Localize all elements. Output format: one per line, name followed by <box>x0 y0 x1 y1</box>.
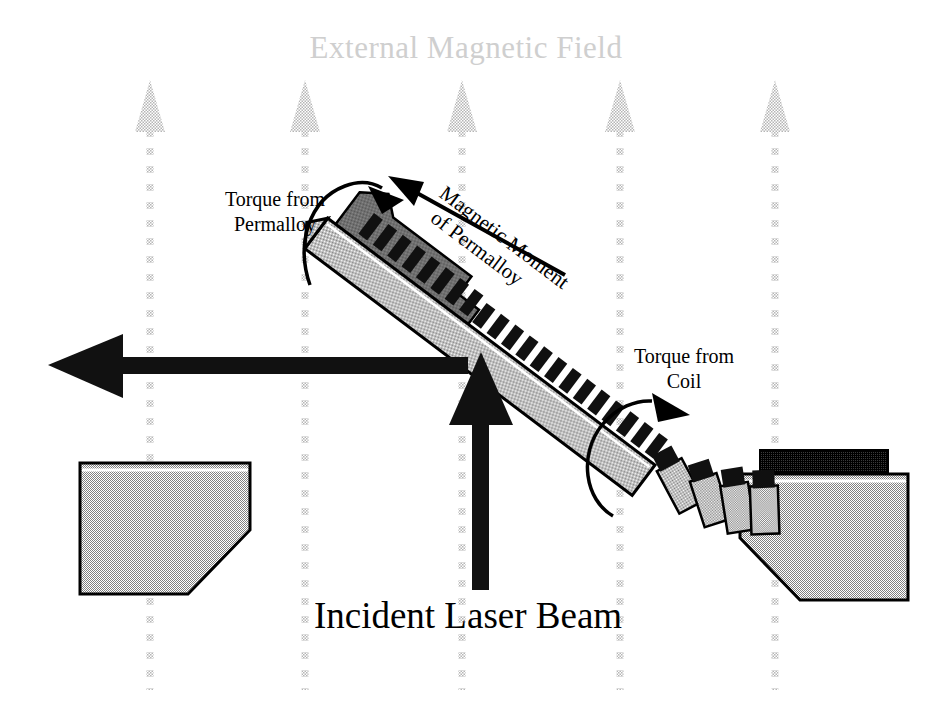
field-arrow-1 <box>135 80 165 690</box>
curved-torque-arrow-icon <box>652 393 690 422</box>
field-arrow-up-icon <box>135 80 165 132</box>
torque-permalloy-label-line2: Permalloy <box>234 213 316 236</box>
field-arrow-up-icon <box>290 80 320 132</box>
incident-beam-shaft <box>472 405 489 590</box>
coil-turn <box>573 379 596 405</box>
coil-turn <box>558 368 581 394</box>
magnetic-cantilever-diagram: External Magnetic Field <box>0 0 932 710</box>
reflected-laser-beam <box>48 334 468 398</box>
torque-coil-label-line1: Torque from <box>634 345 735 368</box>
right-support-electrode <box>760 450 888 472</box>
laser-arrow-left-icon <box>48 334 123 398</box>
reflected-beam-shaft <box>113 357 468 374</box>
coil-turn <box>487 314 510 340</box>
left-support-body <box>80 463 250 594</box>
torque-permalloy-label-line1: Torque from <box>225 188 326 211</box>
field-arrow-up-icon <box>605 80 635 132</box>
coil-turn <box>501 325 524 351</box>
coil-turn <box>544 357 567 383</box>
coil-turn <box>515 335 538 361</box>
coil-turn <box>587 390 610 416</box>
page-title: External Magnetic Field <box>310 30 623 65</box>
torque-coil-label-line2: Coil <box>667 370 702 392</box>
incident-laser-beam-label: Incident Laser Beam <box>314 595 622 636</box>
field-arrow-up-icon <box>760 80 790 132</box>
diagram-canvas: External Magnetic Field <box>0 0 932 710</box>
coil-turn <box>630 422 653 448</box>
coil-turn <box>530 346 553 372</box>
field-arrow-5 <box>760 80 790 690</box>
field-arrow-up-icon <box>447 80 477 132</box>
left-support-block <box>80 463 250 594</box>
